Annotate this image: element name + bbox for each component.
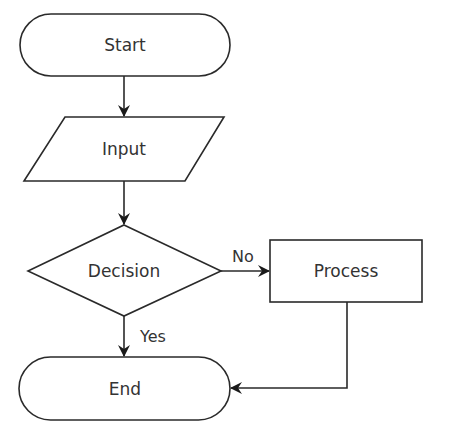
edge-process-to-end [231, 302, 347, 388]
node-start: Start [20, 14, 230, 76]
node-label-start: Start [104, 35, 146, 55]
node-label-end: End [109, 379, 141, 399]
flowchart-canvas: No Yes Start Input Decision Process End [0, 0, 450, 436]
node-label-process: Process [314, 261, 379, 281]
edge-decision-to-process: No [221, 247, 269, 271]
node-process: Process [270, 240, 422, 302]
node-end: End [19, 357, 230, 420]
node-label-input: Input [102, 139, 146, 159]
node-input: Input [24, 117, 224, 181]
node-label-decision: Decision [88, 261, 160, 281]
edge-decision-to-end: Yes [124, 316, 166, 356]
edge-label-no: No [232, 247, 254, 266]
edge-label-yes: Yes [139, 327, 166, 346]
node-decision: Decision [28, 225, 221, 316]
